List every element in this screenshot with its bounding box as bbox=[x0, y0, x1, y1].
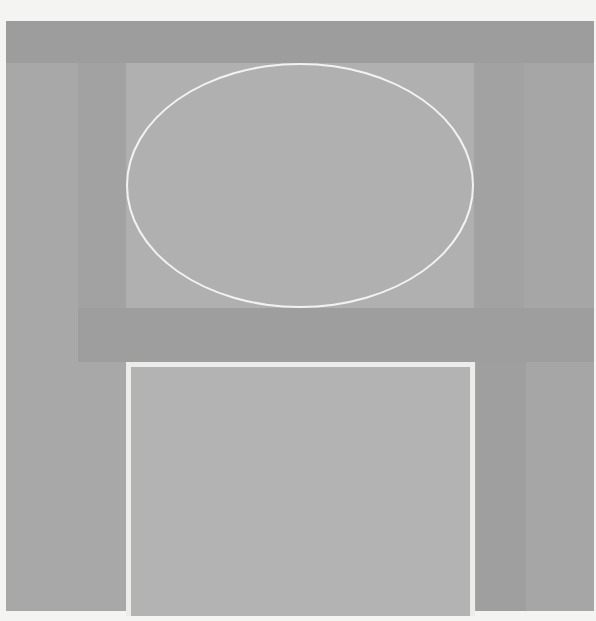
top-dark-band bbox=[6, 21, 594, 63]
right-gray-column bbox=[476, 362, 526, 611]
upper-panel bbox=[126, 63, 474, 308]
middle-dark-band bbox=[78, 308, 594, 362]
white-ellipse-outline bbox=[126, 63, 474, 308]
painting-canvas bbox=[6, 21, 594, 611]
white-square-outline bbox=[126, 362, 475, 616]
